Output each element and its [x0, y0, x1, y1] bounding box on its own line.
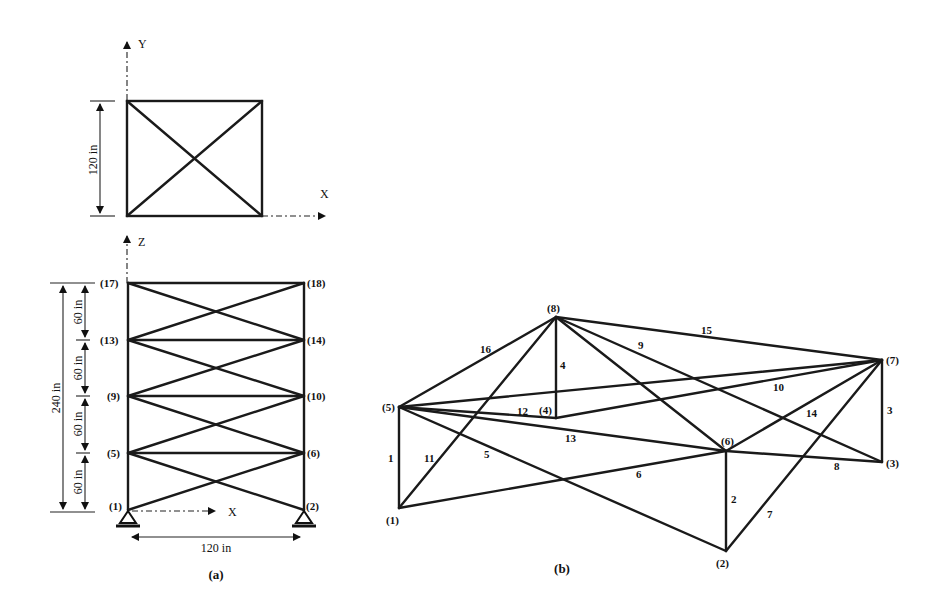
- plan-view: Y X 120 in: [86, 37, 329, 216]
- node-5-label: (5): [107, 447, 120, 460]
- member-16-label: 16: [480, 343, 492, 355]
- x-axis-label-plan: X: [320, 187, 329, 201]
- x-axis-label-elev: X: [228, 505, 237, 519]
- node-18-label: (18): [307, 277, 326, 290]
- node-13-label: (13): [100, 334, 119, 347]
- dim-total-height-label: 240 in: [49, 383, 63, 413]
- pin-support-right-icon: [292, 511, 316, 526]
- node-b8-label: (8): [547, 302, 560, 315]
- node-b3-label: (3): [886, 457, 899, 470]
- member-1-label: 1: [388, 452, 394, 464]
- node-6-label: (6): [307, 447, 320, 460]
- member-6: [399, 451, 726, 508]
- member-2-label: 2: [731, 493, 737, 505]
- member-6-label: 6: [636, 468, 642, 480]
- member-4-label: 4: [560, 359, 566, 371]
- node-b4-label: (4): [539, 404, 552, 417]
- dim-width-label: 120 in: [201, 541, 231, 555]
- member-7-label: 7: [767, 508, 773, 520]
- member-3-label: 3: [887, 404, 893, 416]
- caption-b: (b): [554, 561, 570, 576]
- member-14-label: 14: [806, 407, 818, 419]
- dim-story-1-label: 60 in: [71, 470, 85, 494]
- node-b7-label: (7): [886, 354, 899, 367]
- y-axis-label: Y: [138, 37, 147, 51]
- member-8-label: 8: [834, 460, 840, 472]
- member-15-label: 15: [701, 324, 713, 336]
- node-2-label: (2): [306, 500, 319, 513]
- member-5-label: 5: [484, 448, 490, 460]
- z-axis-label: Z: [138, 235, 145, 249]
- node-10-label: (10): [307, 390, 326, 403]
- space-truss: (1) (2) (3) (4) (5) (6) (7) (8) 1 2 3 4 …: [382, 302, 899, 570]
- node-b6-label: (6): [721, 435, 734, 448]
- node-1-label: (1): [109, 500, 122, 513]
- caption-a: (a): [208, 567, 223, 582]
- dim-120-plan-label: 120 in: [86, 145, 100, 175]
- truss-figure: Y X 120 in Z (17) (18) (13): [0, 0, 947, 613]
- member-10-label: 10: [773, 381, 785, 393]
- node-b5-label: (5): [382, 401, 395, 414]
- member-12-label: 12: [517, 405, 529, 417]
- node-b2-label: (2): [716, 557, 729, 570]
- member-13-label: 13: [565, 432, 577, 444]
- pin-support-left-icon: [116, 511, 140, 526]
- node-9-label: (9): [107, 390, 120, 403]
- dim-story-2-label: 60 in: [71, 412, 85, 436]
- node-17-label: (17): [100, 277, 119, 290]
- elevation-view: Z (17) (18) (13) (14) (9) (10) (5) (6) (…: [49, 235, 326, 555]
- member-9-label: 9: [638, 339, 644, 351]
- dim-story-3-label: 60 in: [71, 356, 85, 380]
- dim-story-4-label: 60 in: [71, 300, 85, 324]
- node-b1-label: (1): [386, 514, 399, 527]
- node-14-label: (14): [307, 334, 326, 347]
- member-11-label: 11: [424, 452, 434, 464]
